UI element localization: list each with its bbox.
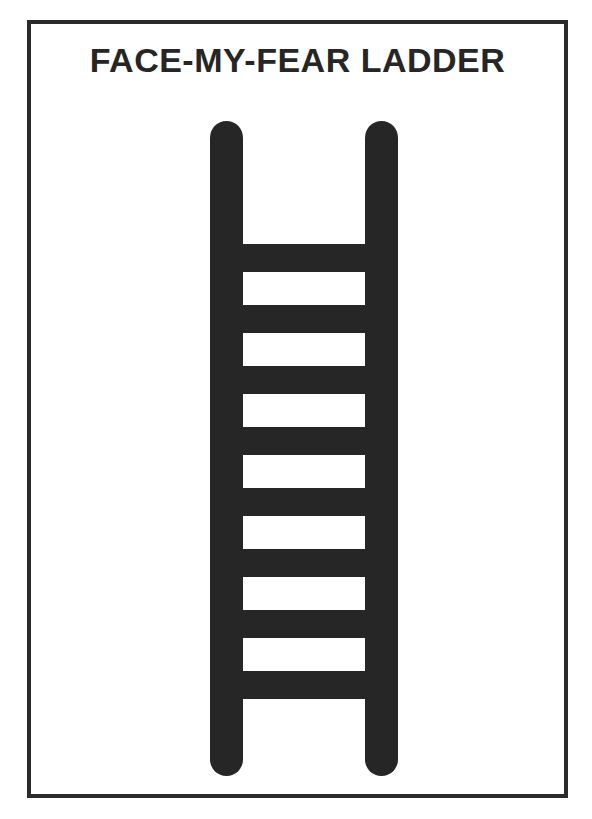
ladder-svg (195, 110, 410, 780)
ladder-rung (235, 549, 373, 577)
page-title: FACE-MY-FEAR LADDER (31, 40, 564, 80)
ladder-rung (235, 366, 373, 394)
ladder-rung (235, 671, 373, 699)
worksheet-page: FACE-MY-FEAR LADDER (0, 0, 592, 819)
ladder-rung (235, 488, 373, 516)
ladder-rung (235, 305, 373, 333)
ladder-icon (195, 110, 410, 780)
ladder-rung (235, 244, 373, 272)
ladder-rung (235, 427, 373, 455)
ladder-rung (235, 610, 373, 638)
